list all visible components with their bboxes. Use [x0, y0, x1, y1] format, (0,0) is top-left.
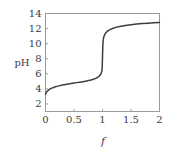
- titration-curve: [46, 23, 160, 95]
- y-axis-label: pH: [14, 57, 29, 68]
- x-tick-label: 2: [156, 114, 162, 125]
- y-tick-label: 8: [35, 53, 41, 64]
- y-tick-label: 2: [35, 98, 41, 109]
- y-tick-label: 14: [29, 8, 42, 19]
- y-tick-label: 12: [29, 23, 42, 34]
- x-axis-label: f: [100, 135, 107, 148]
- x-axis-tick-labels: 00.511.52: [42, 114, 162, 125]
- x-tick-label: 0.5: [66, 114, 82, 125]
- y-axis-tick-labels: 2468101214: [29, 8, 42, 109]
- y-tick-label: 10: [29, 38, 42, 49]
- y-tick-label: 4: [35, 83, 41, 94]
- ph-titration-chart: 2468101214 00.511.52 pH f: [0, 0, 172, 160]
- x-tick-label: 1: [99, 114, 105, 125]
- x-tick-label: 0: [42, 114, 48, 125]
- chart-figure: 2468101214 00.511.52 pH f: [0, 0, 172, 160]
- x-tick-label: 1.5: [123, 114, 139, 125]
- y-tick-label: 6: [35, 68, 41, 79]
